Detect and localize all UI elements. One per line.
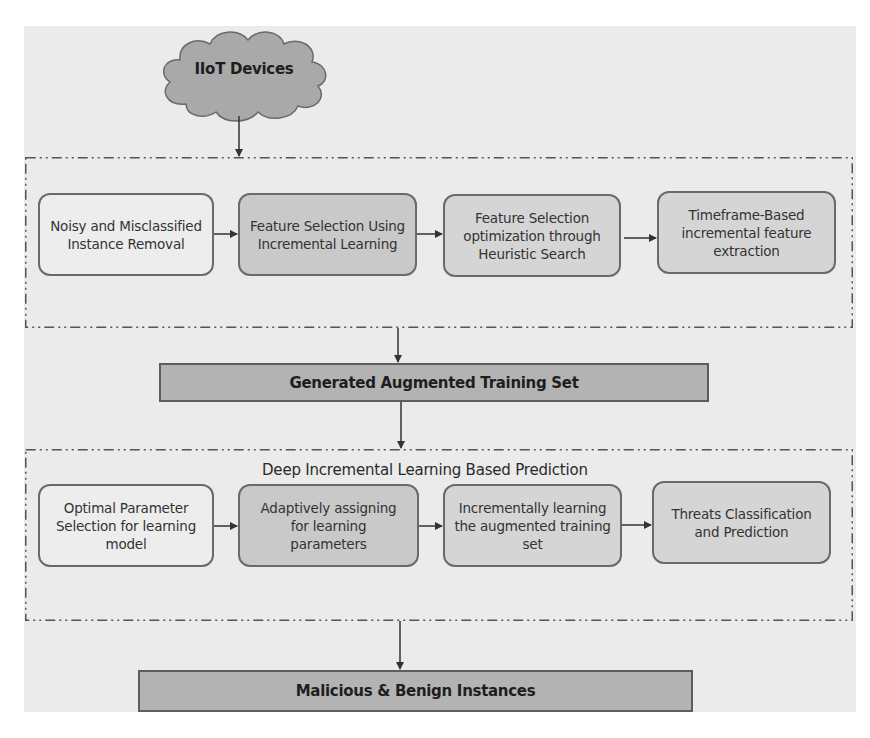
flow-arrows [0, 0, 870, 738]
